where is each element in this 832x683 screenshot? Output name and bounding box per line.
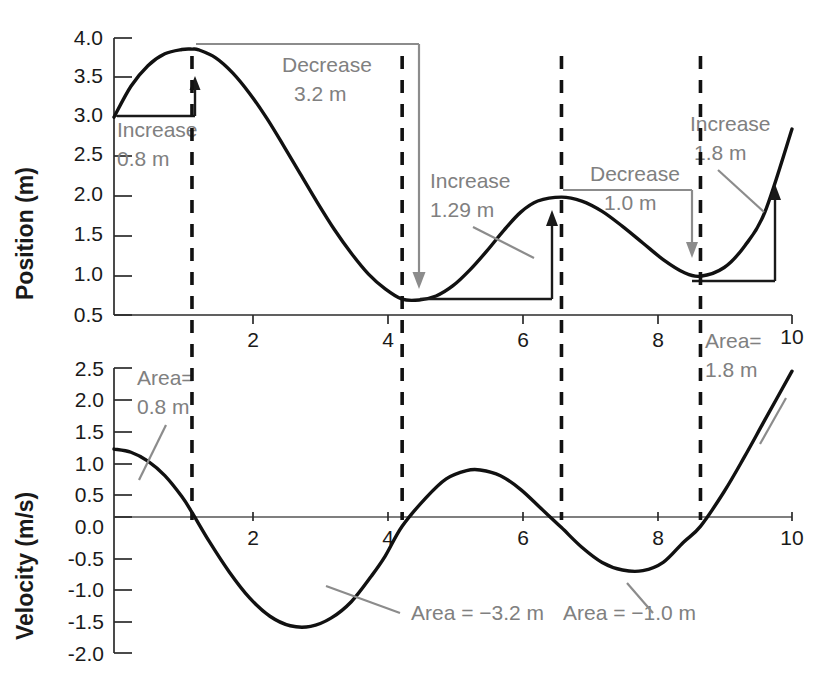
velocity-ytick--2.0: -2.0: [68, 642, 104, 665]
increase-1.8m-indicator: [692, 184, 781, 281]
velocity-ytick-1.0: 1.0: [75, 452, 104, 475]
position-ytick-7: 4.0: [74, 26, 103, 49]
decrease-3.2m-label-line2: 3.2 m: [294, 82, 347, 105]
velocity-xtick-6: 6: [517, 526, 529, 549]
velocity-y-axis-label: Velocity (m/s): [12, 492, 38, 640]
position-x-ticks: [253, 315, 792, 324]
position-ytick-6: 3.5: [74, 64, 103, 87]
increase-1.29m-label-line2: 1.29 m: [430, 198, 494, 221]
increase-0.8m-label-line1: Increase: [117, 118, 198, 141]
velocity-ytick-1.5: 1.5: [75, 420, 104, 443]
area--3.2m-label: Area = −3.2 m: [411, 601, 544, 624]
position-y-axis-label: Position (m): [12, 167, 38, 300]
position-ytick-3: 2.0: [74, 182, 103, 205]
position-ytick-4: 2.5: [74, 142, 103, 165]
velocity-xtick-2: 2: [247, 526, 259, 549]
area-0.8m-label-line2: 0.8 m: [137, 395, 190, 418]
position-ytick-5: 3.0: [74, 103, 103, 126]
velocity-ytick-2.0: 2.0: [75, 388, 104, 411]
physics-kinematics-figure: Position (m) 0.5 1.0 1.5 2.0 2.5 3.0 3.5…: [0, 0, 832, 683]
area-0.8m-label-line1: Area=: [137, 366, 194, 389]
increase-1.8m-leader: [718, 170, 764, 212]
position-xtick-6: 6: [517, 328, 529, 351]
velocity-ytick--1.5: -1.5: [68, 610, 104, 633]
increase-1.29m-label-line1: Increase: [430, 169, 511, 192]
position-ytick-2: 1.5: [74, 222, 103, 245]
velocity-curve: [114, 371, 792, 627]
increase-0.8m-indicator: [117, 76, 201, 116]
position-panel: Position (m) 0.5 1.0 1.5 2.0 2.5 3.0 3.5…: [12, 26, 804, 351]
position-ytick-1: 1.0: [74, 262, 103, 285]
area-1.8m-label-line1: Area=: [705, 329, 762, 352]
position-xtick-4: 4: [382, 328, 394, 351]
decrease-1.0m-label-line2: 1.0 m: [604, 191, 657, 214]
position-y-ticks: [114, 38, 132, 315]
event-dashed-lines: [192, 56, 700, 520]
increase-1.29m-indicator: [420, 210, 558, 299]
decrease-1.0m-label-line1: Decrease: [590, 162, 680, 185]
position-xtick-10: 10: [780, 325, 803, 348]
velocity-y-ticks: [114, 368, 132, 653]
increase-0.8m-label-line2: 0.8 m: [117, 147, 170, 170]
velocity-ytick--0.5: -0.5: [68, 547, 104, 570]
decrease-3.2m-indicator: [196, 44, 426, 289]
figure-canvas: Position (m) 0.5 1.0 1.5 2.0 2.5 3.0 3.5…: [0, 0, 832, 683]
area-1.8m-label-line2: 1.8 m: [705, 358, 758, 381]
velocity-ytick-0.5: 0.5: [75, 483, 104, 506]
velocity-xtick-10: 10: [780, 526, 803, 549]
velocity-xtick-8: 8: [652, 526, 664, 549]
position-ytick-0: 0.5: [74, 303, 103, 326]
position-xtick-8: 8: [652, 328, 664, 351]
velocity-ytick-0.0: 0.0: [75, 515, 104, 538]
velocity-panel: Velocity (m/s) 2.5 2.0 1.5 1.0 0.5 0.0 -…: [12, 329, 804, 665]
position-xtick-2: 2: [247, 328, 259, 351]
decrease-3.2m-label-line1: Decrease: [282, 53, 372, 76]
velocity-ytick-2.5: 2.5: [75, 357, 104, 380]
area--1.0m-label: Area = −1.0 m: [563, 601, 696, 624]
velocity-ytick--1.0: -1.0: [68, 578, 104, 601]
